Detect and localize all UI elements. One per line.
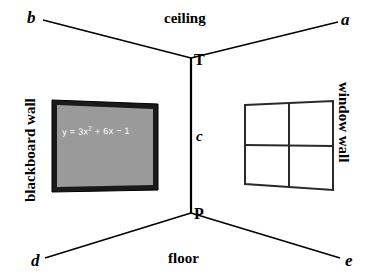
corner-label-d: d (31, 251, 40, 271)
window-mullion-horizontal (245, 145, 333, 146)
equation-lhs: y = 3x (62, 126, 88, 137)
ceiling-label: ceiling (164, 10, 206, 27)
window-wall-label: window wall (335, 82, 352, 162)
corner-label-a: a (341, 10, 350, 30)
ceiling-edge-to-a (191, 22, 338, 58)
floor-edge-to-e (191, 213, 340, 258)
vertex-label-t: T (194, 51, 205, 69)
corner-label-e: e (345, 251, 353, 271)
blackboard-equation: y = 3x2 + 6x − 1 (62, 124, 130, 137)
vertex-label-p: P (194, 205, 204, 223)
equation-rhs: + 6x − 1 (92, 126, 130, 137)
blackboard-surface (57, 105, 153, 187)
corner-label-b: b (27, 8, 36, 28)
room-corner-diagram (0, 0, 368, 280)
blackboard-wall-label: blackboard wall (22, 98, 39, 202)
edge-label-c: c (196, 128, 203, 145)
floor-label: floor (168, 250, 199, 267)
